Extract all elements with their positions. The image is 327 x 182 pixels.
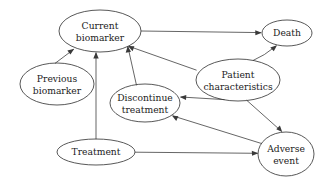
node-current-biomarker-label-line1: Current — [82, 20, 119, 31]
arrow-head-icon — [252, 151, 259, 156]
node-adverse-event[interactable]: Adverse event — [258, 132, 314, 176]
node-current-biomarker-shape — [59, 10, 141, 52]
arrow-head-icon — [180, 95, 187, 100]
node-current-biomarker-label-line2: biomarker — [76, 32, 125, 43]
edge-patient-characteristics-to-adverse-event — [247, 100, 283, 132]
node-previous-biomarker[interactable]: Previous biomarker — [20, 63, 94, 105]
node-discontinue-treatment-label-line2: treatment — [122, 104, 169, 115]
node-previous-biomarker-shape — [20, 63, 94, 105]
node-treatment-label: Treatment — [72, 146, 121, 157]
arrow-head-icon — [270, 45, 277, 51]
edge-patient-characteristics-to-death — [253, 45, 277, 60]
arrow-head-icon — [172, 116, 179, 122]
node-adverse-event-label-line1: Adverse — [266, 143, 305, 154]
diagram-canvas: Current biomarker Previous biomarker Dis… — [0, 0, 327, 182]
node-current-biomarker[interactable]: Current biomarker — [59, 10, 141, 52]
arrow-head-icon — [93, 52, 98, 59]
node-patient-characteristics-label-line1: Patient — [222, 69, 255, 80]
arrow-head-icon — [276, 125, 282, 132]
edge-discontinue-treatment-to-current-biomarker — [126, 46, 137, 85]
arrow-head-icon — [255, 30, 262, 35]
node-patient-characteristics[interactable]: Patient characteristics — [196, 59, 280, 101]
node-patient-characteristics-shape — [196, 59, 280, 101]
node-discontinue-treatment-shape — [110, 84, 180, 122]
node-death[interactable]: Death — [262, 20, 312, 46]
node-discontinue-treatment[interactable]: Discontinue treatment — [110, 84, 180, 122]
node-patient-characteristics-label-line2: characteristics — [203, 81, 273, 92]
edge-patient-characteristics-to-current-biomarker — [128, 46, 197, 70]
edge-adverse-event-to-discontinue-treatment — [172, 116, 262, 144]
node-discontinue-treatment-label-line1: Discontinue — [117, 92, 173, 103]
edge-patient-characteristics-to-discontinue-treatment — [180, 95, 225, 100]
node-death-label: Death — [273, 27, 301, 38]
edge-current-biomarker-to-death — [141, 30, 262, 35]
node-adverse-event-label-line2: event — [273, 155, 299, 166]
node-previous-biomarker-label-line1: Previous — [37, 73, 78, 84]
edge-treatment-to-current-biomarker — [93, 52, 98, 139]
node-layer: Current biomarker Previous biomarker Dis… — [20, 10, 314, 176]
edge-previous-biomarker-to-current-biomarker — [55, 49, 74, 64]
edge-treatment-to-adverse-event — [135, 151, 258, 156]
node-previous-biomarker-label-line2: biomarker — [33, 85, 82, 96]
dag-diagram: Current biomarker Previous biomarker Dis… — [0, 0, 327, 182]
node-treatment[interactable]: Treatment — [57, 139, 135, 165]
